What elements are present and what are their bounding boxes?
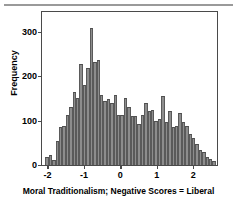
x-axis-tick [84, 165, 85, 169]
histogram-bar [212, 161, 215, 165]
plot-area [42, 12, 217, 165]
x-axis-tick-label: 0 [118, 170, 123, 180]
y-axis-tick-label: 0 [32, 160, 37, 170]
y-axis-tick [38, 121, 42, 122]
y-axis-tick [38, 32, 42, 33]
x-axis-tick-label: -2 [43, 170, 51, 180]
y-axis-tick-label: 200 [22, 71, 37, 81]
x-axis-tick [193, 165, 194, 169]
y-axis-tick-label: 100 [22, 116, 37, 126]
x-axis-tick [120, 165, 121, 169]
x-axis-tick [157, 165, 158, 169]
y-axis-tick-label: 300 [22, 27, 37, 37]
y-axis-title: Frequency [9, 28, 19, 118]
plot-frame: 0100200300-2-1012 [41, 11, 218, 166]
x-axis-tick-label: 1 [154, 170, 159, 180]
x-axis-title: Moral Traditionalism; Negative Scores = … [0, 186, 237, 196]
x-axis-tick [47, 165, 48, 169]
histogram-figure: Frequency 0100200300-2-1012 Moral Tradit… [0, 0, 237, 201]
top-horizontal-rule [4, 4, 233, 6]
y-axis-tick [38, 165, 42, 166]
x-axis-tick-label: -1 [80, 170, 88, 180]
y-axis-tick [38, 76, 42, 77]
x-axis-tick-label: 2 [191, 170, 196, 180]
